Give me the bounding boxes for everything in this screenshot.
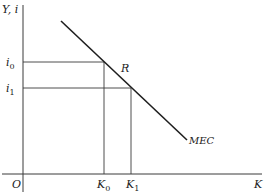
i1-label: i1 — [6, 82, 15, 97]
y-axis-label: Y, i — [2, 3, 18, 16]
mec-curve — [61, 21, 187, 140]
k1-label: K1 — [125, 178, 139, 193]
origin-label: O — [12, 178, 21, 191]
mec-diagram: Y, i i0 i1 R MEC O K0 K1 K — [0, 0, 268, 194]
x-axis-label: K — [253, 178, 263, 191]
k0-label: K0 — [96, 178, 110, 193]
i0-label: i0 — [6, 56, 15, 71]
mec-label: MEC — [188, 135, 215, 146]
point-r-label: R — [120, 62, 129, 75]
